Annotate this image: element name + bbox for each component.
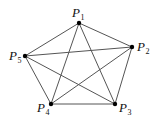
- edge-p2-p5: [25, 47, 132, 56]
- vertex-label-p5: P5: [8, 48, 21, 65]
- vertex-dot-p3: [113, 102, 117, 106]
- diagram-canvas: P1P2P3P4P5: [0, 0, 157, 119]
- vertex-dot-p4: [49, 102, 53, 106]
- vertex-label-p2: P2: [136, 39, 149, 56]
- edge-p1-p5: [25, 23, 79, 56]
- vertex-label-p3: P3: [118, 100, 131, 117]
- edges-group: [25, 23, 132, 104]
- vertex-dot-p2: [130, 45, 134, 49]
- vertex-label-p1: P1: [71, 5, 84, 22]
- edge-p1-p4: [51, 23, 79, 104]
- edge-p2-p3: [115, 47, 132, 104]
- edge-p1-p3: [79, 23, 115, 104]
- complete-graph-k5: P1P2P3P4P5: [0, 0, 157, 119]
- vertex-label-p4: P4: [36, 100, 49, 117]
- vertex-dot-p5: [23, 54, 27, 58]
- edge-p2-p4: [51, 47, 132, 104]
- edge-p1-p2: [79, 23, 132, 47]
